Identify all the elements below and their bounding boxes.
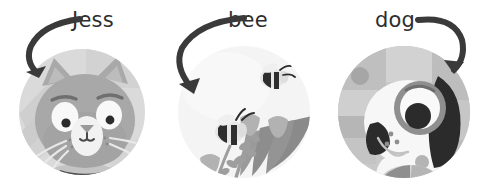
illustration-page: Jess [0,0,482,190]
arrow-dog-icon [414,10,482,84]
arrow-bee-icon [164,12,252,104]
panel-cat: Jess [0,0,160,190]
arrow-jess-icon [14,14,86,86]
panel-dog: dog [322,0,482,190]
panel-bee: bee [160,0,322,190]
label-dog: dog [375,10,415,31]
